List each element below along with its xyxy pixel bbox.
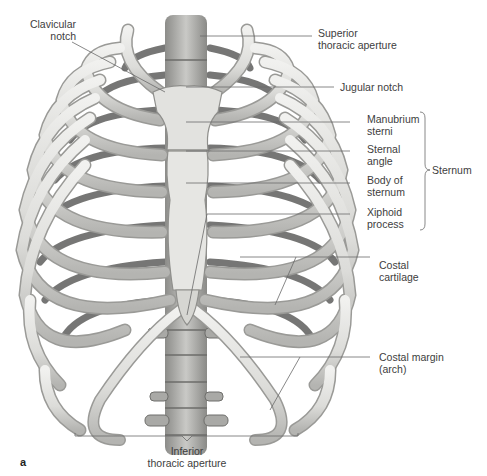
- sternal-body: [167, 150, 208, 290]
- label-manubrium-sterni: Manubrium sterni: [367, 113, 420, 137]
- label-inferior-thoracic-aperture: Inferior thoracic aperture: [137, 445, 237, 469]
- label-body-of-sternum: Body of sternum: [367, 174, 405, 198]
- label-costal-margin: Costal margin (arch): [379, 351, 444, 375]
- manubrium: [153, 86, 222, 150]
- label-xiphoid-process: Xiphoid process: [367, 206, 404, 230]
- label-sternum-group: Sternum: [432, 164, 472, 176]
- label-sternal-angle: Sternal angle: [367, 143, 400, 167]
- thoracic-cage-illustration: [0, 0, 487, 476]
- label-costal-cartilage: Costal cartilage: [379, 259, 419, 283]
- label-clavicular-notch: Clavicular notch: [14, 18, 76, 42]
- panel-letter: a: [20, 456, 26, 468]
- label-superior-thoracic-aperture: Superior thoracic aperture: [318, 27, 397, 51]
- leader-lines: [72, 36, 430, 441]
- label-jugular-notch: Jugular notch: [340, 81, 403, 93]
- sternum: [153, 86, 222, 325]
